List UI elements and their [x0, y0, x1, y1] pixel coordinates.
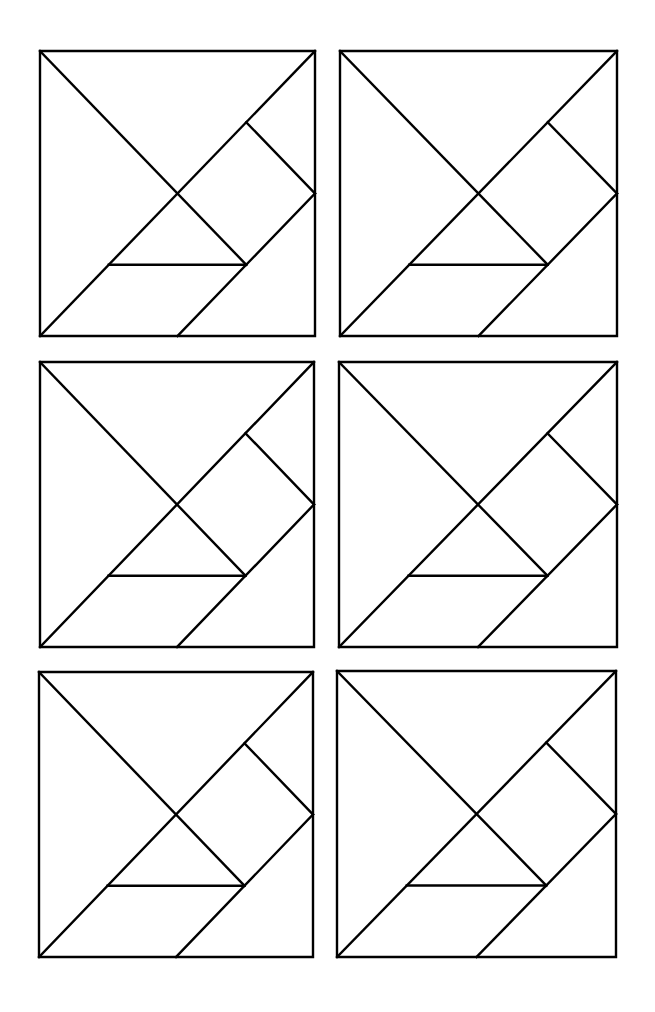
square-upper-edge-line — [546, 743, 616, 815]
tangram-template-3 — [40, 362, 314, 647]
tangram-figure — [339, 362, 617, 647]
square-upper-edge-line — [245, 743, 314, 814]
tangram-template-4 — [339, 362, 617, 647]
tangram-figure — [40, 51, 315, 336]
square-upper-edge-line — [548, 433, 618, 504]
diagonal-top-left-to-center-line — [339, 362, 548, 576]
diagonal-top-left-to-center-line — [337, 671, 546, 886]
tangram-figure — [340, 51, 617, 336]
worksheet-page — [0, 0, 655, 1012]
tangram-figure — [337, 671, 616, 957]
diagonal-top-left-to-center-line — [39, 672, 245, 886]
diagonal-top-left-to-center-line — [40, 362, 246, 576]
square-upper-edge-line — [548, 122, 617, 193]
tangram-template-5 — [39, 672, 313, 957]
diagonal-top-left-to-center-line — [40, 51, 246, 265]
tangram-template-1 — [40, 51, 315, 336]
diagonal-top-left-to-center-line — [340, 51, 548, 265]
tangram-figure — [40, 362, 314, 647]
tangram-figure — [39, 672, 313, 957]
tangram-template-6 — [337, 671, 616, 957]
square-upper-edge-line — [246, 122, 315, 193]
square-upper-edge-line — [246, 433, 315, 504]
tangram-template-2 — [340, 51, 617, 336]
